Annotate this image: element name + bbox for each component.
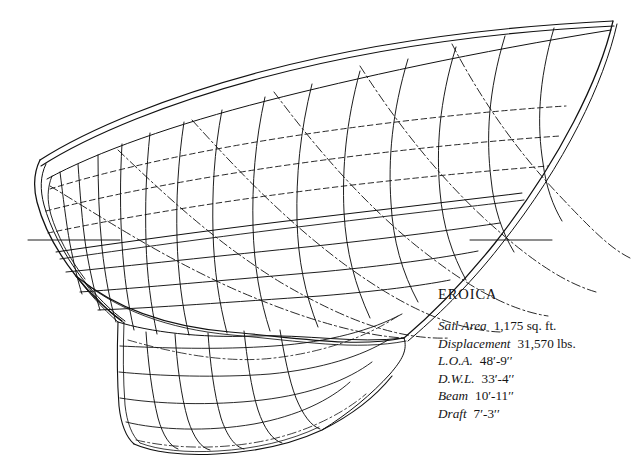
- spec-value-displacement: 31,570 lbs.: [511, 336, 576, 351]
- list-item: Sail Area1,175 sq. ft.: [438, 317, 634, 335]
- spec-label-draft: Draft: [438, 406, 467, 421]
- spec-label-loa: L.O.A.: [438, 353, 473, 368]
- waterlines-dashed: [46, 106, 566, 233]
- spec-value-beam: 10′-11′′: [468, 388, 514, 403]
- spec-label-dwl: D.W.L.: [438, 371, 475, 386]
- list-item: L.O.A.48′-9′′: [438, 352, 634, 370]
- drawing-page: EROICA Sail Area1,175 sq. ft. Displaceme…: [0, 0, 639, 458]
- specifications-block: EROICA Sail Area1,175 sq. ft. Displaceme…: [438, 286, 634, 423]
- spec-label-beam: Beam: [438, 388, 468, 403]
- spec-label-sail-area: Sail Area: [438, 318, 487, 333]
- list-item: Beam10′-11′′: [438, 387, 634, 405]
- list-item: Draft7′-3′′: [438, 405, 634, 423]
- spec-value-sail-area: 1,175 sq. ft.: [487, 318, 557, 333]
- spec-label-displacement: Displacement: [438, 336, 511, 351]
- page-title: EROICA: [438, 286, 634, 303]
- spec-value-draft: 7′-3′′: [467, 406, 500, 421]
- spec-value-loa: 48′-9′′: [473, 353, 513, 368]
- sheer-line-far: [40, 21, 613, 160]
- spec-value-dwl: 33′-4′′: [475, 371, 515, 386]
- deck-edge-near-side: [47, 30, 611, 179]
- buttock-bands-lower-hull: [66, 223, 500, 310]
- rail-cap-line: [41, 26, 614, 166]
- specification-list: Sail Area1,175 sq. ft. Displacement31,57…: [438, 317, 634, 423]
- list-item: D.W.L.33′-4′′: [438, 370, 634, 388]
- canoe-body-bottom-profile: [76, 276, 406, 345]
- list-item: Displacement31,570 lbs.: [438, 335, 634, 353]
